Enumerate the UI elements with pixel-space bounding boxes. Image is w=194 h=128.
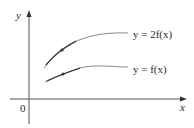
y-axis bbox=[27, 10, 32, 124]
curve-2f bbox=[44, 33, 128, 68]
curve-2f-point bbox=[60, 48, 63, 51]
diagram-canvas: y 0 x y = 2f(x) y = f(x) bbox=[0, 0, 194, 128]
x-axis bbox=[10, 97, 187, 102]
y-axis-arrow-icon bbox=[27, 10, 32, 17]
x-axis-label: x bbox=[179, 101, 185, 113]
curve-2f-highlight-segment bbox=[46, 41, 76, 65]
curve-f-label: y = f(x) bbox=[133, 63, 167, 76]
curve-f bbox=[45, 66, 128, 82]
curve-2f-label: y = 2f(x) bbox=[133, 28, 173, 41]
origin-label: 0 bbox=[20, 102, 26, 114]
y-axis-label: y bbox=[15, 9, 21, 21]
curve-f-point bbox=[61, 72, 64, 75]
